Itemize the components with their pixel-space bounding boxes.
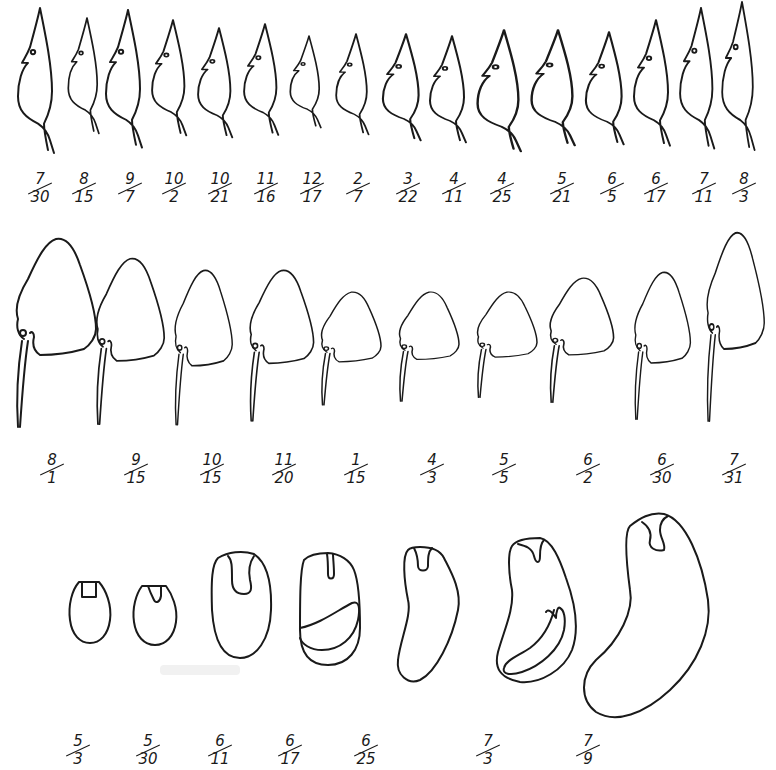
bird-figure-10 [430,36,466,143]
bird-figure-15 [680,8,714,149]
date-label: 73 [466,734,510,767]
date-label: 617 [634,172,678,205]
seed-figure-1 [69,582,110,643]
bird-figure-14 [634,20,670,146]
date-label: 65 [590,172,634,205]
date-label: 530 [126,734,170,767]
date-label: 425 [480,172,524,205]
date-label: 730 [18,172,62,205]
seed-figure-7 [584,514,709,717]
seed-figure-6 [497,538,576,682]
bird-figure-4 [152,20,186,135]
bird-figure-8 [336,34,368,135]
bird-figure-12 [532,30,575,145]
date-label: 55 [482,453,526,486]
date-label: 815 [62,172,106,205]
date-label: 630 [640,453,684,486]
seed-figure-2 [133,586,176,645]
date-label: 1120 [262,453,306,486]
date-label: 1021 [198,172,242,205]
bird-figure-2 [68,18,99,133]
beaked-figure-9 [635,272,690,419]
seed-figure-3 [212,552,271,658]
bird-figure-16 [722,2,754,150]
bird-figure-3 [106,10,142,148]
date-label: 81 [30,453,74,486]
row-3-figures [0,500,776,730]
date-label: 97 [108,172,152,205]
date-label: 115 [334,453,378,486]
date-label: 1116 [244,172,288,205]
bird-figure-5 [198,28,232,138]
date-label: 83 [722,172,766,205]
beaked-figure-5 [322,292,381,405]
date-label: 711 [682,172,726,205]
seed-figure-4 [300,553,360,665]
date-label: 1217 [290,172,334,205]
date-label: 611 [198,734,242,767]
date-label: 731 [712,453,756,486]
date-label: 625 [344,734,388,767]
bird-figure-1 [18,8,54,153]
date-label: 79 [566,734,610,767]
seed-figure-5 [398,547,459,681]
row-3-drawings [0,500,776,730]
beaked-figure-6 [400,292,459,401]
date-label: 521 [540,172,584,205]
date-label: 27 [336,172,380,205]
bird-figure-11 [478,30,521,151]
date-label: 1015 [190,453,234,486]
bird-figure-7 [290,36,321,128]
beaked-figure-4 [250,270,313,421]
date-label: 411 [432,172,476,205]
bird-figure-9 [383,34,421,141]
bird-figure-13 [586,32,624,144]
beaked-figure-2 [97,259,164,425]
row-1-figures [0,0,776,160]
beaked-figure-3 [175,270,232,424]
bird-figure-6 [244,24,278,135]
date-label: 102 [152,172,196,205]
date-label: 617 [268,734,312,767]
date-label: 53 [56,734,100,767]
faint-smudge-mark [160,665,240,675]
beaked-figure-10 [707,233,764,421]
row-1-drawings [0,0,776,160]
date-label: 915 [114,453,158,486]
beaked-figure-1 [17,239,96,427]
date-label: 322 [386,172,430,205]
row-2-figures [0,225,776,435]
beaked-figure-7 [478,292,537,397]
row-2-drawings [0,225,776,435]
date-label: 43 [410,453,454,486]
date-label: 62 [566,453,610,486]
beaked-figure-8 [550,278,613,402]
